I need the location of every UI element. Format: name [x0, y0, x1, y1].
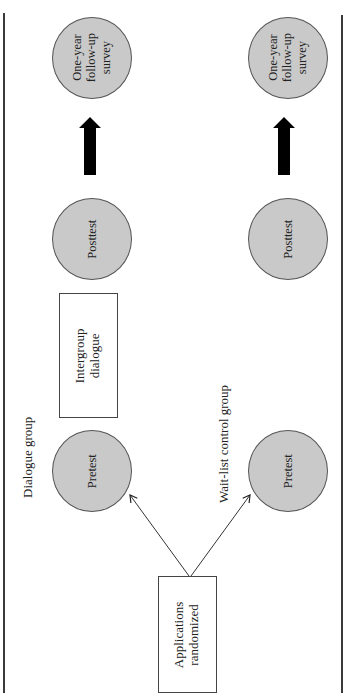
arrow-to-waitlist-pretest [191, 495, 250, 576]
study-design-diagram: One-year follow-up survey Posttest Inter… [0, 0, 346, 693]
start-line1: Applications [173, 601, 188, 667]
bold-arrow-dialogue-icon [79, 117, 101, 175]
dialogue-posttest-label: Posttest [85, 220, 99, 259]
waitlist-posttest-label: Posttest [281, 220, 295, 259]
start-line2: randomized [188, 601, 203, 667]
dialogue-followup-line2: follow-up [85, 33, 99, 82]
arrow-to-dialogue-pretest [130, 495, 189, 576]
intervention-line1: Intergroup [74, 328, 89, 383]
waitlist-followup-line3: survey [295, 33, 309, 82]
waitlist-pretest-node: Pretest [248, 430, 328, 512]
bold-arrow-waitlist-icon [273, 117, 295, 175]
dialogue-group-label: Dialogue group [20, 417, 36, 498]
dialogue-followup-line3: survey [99, 33, 113, 82]
waitlist-group-label: Wait-list control group [216, 385, 232, 503]
dialogue-followup-node: One-year follow-up survey [52, 17, 132, 99]
dialogue-posttest-node: Posttest [52, 198, 132, 280]
waitlist-posttest-node: Posttest [248, 198, 328, 280]
dialogue-pretest-label: Pretest [85, 454, 99, 488]
intervention-line2: dialogue [88, 328, 103, 383]
waitlist-followup-line2: follow-up [281, 33, 295, 82]
dialogue-followup-line1: One-year [70, 33, 84, 82]
intergroup-dialogue-box: Intergroup dialogue [59, 293, 118, 418]
waitlist-followup-line1: One-year [266, 33, 280, 82]
applications-randomized-box: Applications randomized [158, 576, 217, 693]
waitlist-followup-node: One-year follow-up survey [248, 17, 328, 99]
dialogue-pretest-node: Pretest [52, 430, 132, 512]
waitlist-pretest-label: Pretest [281, 454, 295, 488]
